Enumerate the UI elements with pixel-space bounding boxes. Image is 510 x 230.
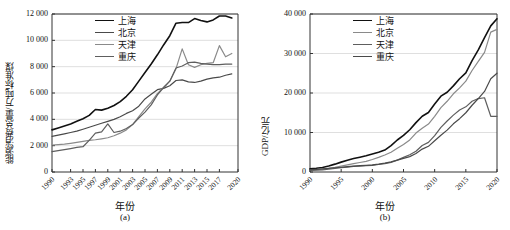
legend-item-北京[interactable]: 北京 (353, 26, 394, 38)
chart-legend: 上海北京天津重庆 (353, 14, 394, 62)
panel-a: 能源消费总量/万吨标准煤 年份 (a) 02 0004 0006 0008 00… (0, 0, 255, 230)
panel-b: GDP/亿元 年份 (b) 010 00020 00030 00040 0001… (255, 0, 510, 230)
y-tick-label: 20 000 (264, 88, 306, 97)
legend-line-icon (353, 44, 372, 45)
legend-line-icon (353, 32, 372, 33)
series-line-重庆 (52, 62, 232, 152)
legend-item-天津[interactable]: 天津 (95, 38, 136, 50)
y-tick-label: 2 000 (6, 141, 48, 150)
chart-b-ylabel: GDP/亿元 (258, 46, 271, 156)
chart-b-xlabel: 年份 (355, 198, 415, 213)
figure-container: 能源消费总量/万吨标准煤 年份 (a) 02 0004 0006 0008 00… (0, 0, 510, 230)
y-tick-label: 0 (264, 167, 306, 176)
legend-line-icon (353, 20, 372, 21)
legend-label: 重庆 (376, 50, 394, 63)
legend-item-重庆[interactable]: 重庆 (353, 50, 394, 62)
chart-b-sublabel: (b) (355, 212, 415, 222)
legend-line-icon (95, 44, 114, 45)
y-tick-label: 0 (6, 167, 48, 176)
y-tick-label: 40 000 (264, 9, 306, 18)
y-tick-label: 8 000 (6, 62, 48, 71)
y-tick-label: 10 000 (6, 35, 48, 44)
legend-line-icon (95, 32, 114, 33)
legend-line-icon (353, 56, 372, 57)
series-line-北京 (310, 29, 497, 170)
chart-a-sublabel: (a) (95, 212, 155, 222)
y-tick-label: 12 000 (6, 9, 48, 18)
legend-line-icon (95, 20, 114, 21)
legend-item-上海[interactable]: 上海 (353, 14, 394, 26)
series-line-上海 (310, 19, 497, 169)
series-line-重庆 (310, 73, 497, 169)
y-tick-label: 4 000 (6, 114, 48, 123)
chart-legend: 上海北京天津重庆 (95, 14, 136, 62)
legend-line-icon (95, 56, 114, 57)
y-tick-label: 10 000 (264, 128, 306, 137)
legend-item-北京[interactable]: 北京 (95, 26, 136, 38)
series-line-北京 (52, 74, 232, 137)
legend-item-上海[interactable]: 上海 (95, 14, 136, 26)
y-tick-label: 30 000 (264, 49, 306, 58)
chart-a-xlabel: 年份 (95, 198, 155, 213)
legend-item-重庆[interactable]: 重庆 (95, 50, 136, 62)
legend-item-天津[interactable]: 天津 (353, 38, 394, 50)
legend-label: 重庆 (118, 50, 136, 63)
y-tick-label: 6 000 (6, 88, 48, 97)
